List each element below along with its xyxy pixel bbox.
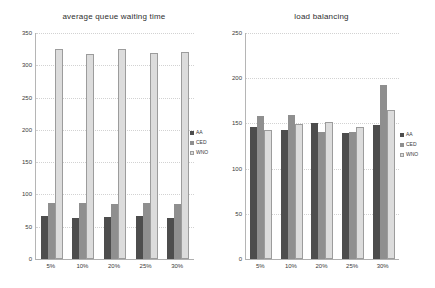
- y-tick-label: 150: [6, 159, 32, 165]
- legend-swatch-icon: [400, 153, 404, 157]
- legend-label: WNO: [196, 150, 208, 155]
- bar-groups: [246, 33, 399, 259]
- bar-CED: [257, 116, 264, 259]
- bar-group-5%: [246, 33, 277, 259]
- legend-swatch-icon: [190, 131, 194, 135]
- x-tick-label: 25%: [130, 263, 162, 269]
- bar-WNO: [150, 53, 158, 259]
- legend-label: AA: [406, 132, 413, 137]
- x-tick-label: 30%: [367, 263, 398, 269]
- bar-AA: [72, 218, 79, 259]
- bar-CED: [111, 204, 118, 259]
- legend-swatch-icon: [190, 151, 194, 155]
- bar-group-20%: [307, 33, 338, 259]
- chart-load-balancing: load balancing 050100150200250 5%10%20%2…: [218, 0, 435, 288]
- bar-group-25%: [131, 33, 163, 259]
- chart-average-queue-waiting-time: average queue waiting time 0501001502002…: [0, 0, 218, 288]
- legend-label: AA: [196, 130, 203, 135]
- bar-CED: [318, 132, 325, 259]
- bar-WNO: [118, 49, 126, 259]
- bar-WNO: [356, 127, 364, 259]
- legend-item-AA: AA: [190, 129, 208, 136]
- y-tick-label: 250: [216, 30, 242, 36]
- bar-group-10%: [68, 33, 100, 259]
- bar-WNO: [264, 130, 272, 259]
- bar-AA: [104, 217, 111, 259]
- bar-AA: [167, 218, 174, 259]
- bar-group-30%: [368, 33, 399, 259]
- bar-CED: [79, 203, 86, 259]
- bar-WNO: [387, 110, 395, 259]
- bar-CED: [143, 203, 150, 259]
- y-tick-label: 50: [216, 211, 242, 217]
- bar-group-10%: [277, 33, 308, 259]
- bar-group-20%: [99, 33, 131, 259]
- legend-item-WNO: WNO: [190, 149, 208, 156]
- chart-title: average queue waiting time: [35, 13, 193, 21]
- y-tick-label: 300: [6, 62, 32, 68]
- legend-label: WNO: [406, 152, 418, 157]
- chart-title: load balancing: [245, 13, 398, 21]
- legend-item-CED: CED: [400, 141, 418, 148]
- bar-group-5%: [36, 33, 68, 259]
- bar-WNO: [325, 122, 333, 259]
- x-tick-label: 20%: [306, 263, 337, 269]
- legend: AACEDWNO: [190, 129, 208, 159]
- plot-area: 050100150200250: [245, 33, 399, 260]
- y-tick-label: 100: [216, 166, 242, 172]
- bar-AA: [136, 216, 143, 259]
- x-tick-label: 25%: [337, 263, 368, 269]
- bar-AA: [342, 133, 349, 259]
- y-tick-label: 0: [216, 256, 242, 262]
- scanned-figure: average queue waiting time 0501001502002…: [0, 0, 435, 288]
- legend-item-CED: CED: [190, 139, 208, 146]
- bar-group-25%: [338, 33, 369, 259]
- bar-WNO: [55, 49, 63, 259]
- bar-AA: [41, 216, 48, 259]
- legend-label: CED: [196, 140, 207, 145]
- bar-AA: [281, 130, 288, 259]
- bar-WNO: [295, 124, 303, 259]
- bar-AA: [250, 127, 257, 259]
- legend-label: CED: [406, 142, 417, 147]
- y-tick-label: 150: [216, 120, 242, 126]
- y-tick-label: 250: [6, 95, 32, 101]
- legend-item-WNO: WNO: [400, 151, 418, 158]
- legend-swatch-icon: [400, 143, 404, 147]
- y-tick-label: 0: [6, 256, 32, 262]
- x-axis-labels: 5%10%20%25%30%: [35, 263, 193, 269]
- bar-WNO: [181, 52, 189, 259]
- bar-CED: [380, 85, 387, 259]
- plot-area: 050100150200250300350: [35, 33, 194, 260]
- bar-WNO: [86, 54, 94, 259]
- x-tick-label: 5%: [35, 263, 67, 269]
- bar-CED: [349, 132, 356, 259]
- bar-CED: [174, 204, 181, 259]
- bar-AA: [373, 125, 380, 259]
- y-tick-label: 50: [6, 224, 32, 230]
- y-tick-label: 200: [6, 127, 32, 133]
- y-tick-label: 200: [216, 75, 242, 81]
- legend-swatch-icon: [400, 133, 404, 137]
- legend: AACEDWNO: [400, 131, 418, 161]
- x-axis-labels: 5%10%20%25%30%: [245, 263, 398, 269]
- y-tick-label: 100: [6, 191, 32, 197]
- x-tick-label: 5%: [245, 263, 276, 269]
- legend-swatch-icon: [190, 141, 194, 145]
- legend-item-AA: AA: [400, 131, 418, 138]
- x-tick-label: 20%: [98, 263, 130, 269]
- bar-AA: [311, 123, 318, 260]
- x-tick-label: 10%: [67, 263, 99, 269]
- x-tick-label: 30%: [161, 263, 193, 269]
- bar-CED: [288, 115, 295, 259]
- bar-CED: [48, 203, 55, 259]
- bar-groups: [36, 33, 194, 259]
- x-tick-label: 10%: [276, 263, 307, 269]
- y-tick-label: 350: [6, 30, 32, 36]
